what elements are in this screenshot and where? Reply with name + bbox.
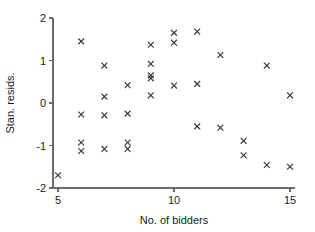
- data-point: [241, 152, 247, 158]
- data-point: [78, 140, 84, 146]
- data-point: [148, 92, 154, 98]
- plot-canvas: -2-1012 51015 No. of bidders Stan. resid…: [0, 0, 315, 232]
- data-point: [78, 112, 84, 118]
- x-tick-label: 5: [55, 194, 61, 206]
- y-tick-group: -2-1012: [36, 12, 53, 194]
- y-tick-label: -1: [36, 140, 46, 152]
- data-point: [148, 42, 154, 48]
- y-tick-label: 2: [40, 12, 46, 24]
- data-point: [218, 52, 224, 58]
- y-axis-label: Stan. resids.: [4, 72, 16, 133]
- data-point: [78, 38, 84, 44]
- data-point-group: [55, 29, 293, 178]
- data-point: [171, 30, 177, 36]
- y-tick-label: 0: [40, 97, 46, 109]
- data-point: [102, 94, 108, 100]
- data-point: [194, 81, 200, 87]
- y-tick-label: 1: [40, 55, 46, 67]
- x-tick-label: 10: [168, 194, 180, 206]
- data-point: [148, 61, 154, 67]
- data-point: [287, 164, 293, 170]
- data-point: [78, 148, 84, 154]
- data-point: [287, 92, 293, 98]
- data-point: [264, 63, 270, 69]
- y-tick-label: -2: [36, 182, 46, 194]
- x-tick-group: 51015: [55, 188, 296, 206]
- scatter-plot-figure: -2-1012 51015 No. of bidders Stan. resid…: [0, 0, 315, 232]
- data-point: [125, 111, 131, 117]
- data-point: [55, 172, 61, 178]
- data-point: [102, 146, 108, 152]
- x-axis-group: 51015: [53, 188, 296, 206]
- data-point: [171, 40, 177, 46]
- data-point: [125, 140, 131, 146]
- data-point: [125, 82, 131, 88]
- x-axis-label: No. of bidders: [140, 214, 209, 226]
- data-point: [194, 29, 200, 35]
- data-point: [148, 75, 154, 81]
- data-point: [194, 123, 200, 129]
- data-point: [218, 125, 224, 131]
- data-point: [264, 162, 270, 168]
- y-axis-group: -2-1012: [36, 12, 53, 194]
- x-tick-label: 15: [284, 194, 296, 206]
- data-point: [125, 146, 131, 152]
- data-point: [171, 83, 177, 89]
- data-point: [148, 72, 154, 78]
- data-point: [241, 138, 247, 144]
- data-point: [102, 112, 108, 118]
- data-point: [102, 63, 108, 69]
